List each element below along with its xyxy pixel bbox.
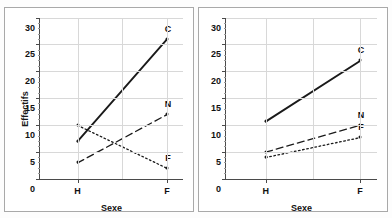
y-axis-minor-tick [224,50,226,51]
y-axis-minor-tick [224,28,226,29]
grid-line-vertical [313,18,314,179]
grid-line [226,18,377,19]
grid-line [226,152,377,153]
y-axis-minor-tick [38,157,40,158]
grid-line [40,98,183,99]
x-axis-tick-label: H [262,186,269,196]
y-axis-minor-tick [224,39,226,40]
y-axis-minor-tick [38,60,40,61]
x-axis-tick-label: H [74,186,81,196]
y-axis-tick-label: 25 [201,49,221,59]
y-axis-minor-tick [224,141,226,142]
y-axis-tick-label: 15 [201,103,221,113]
plot-area: CNF Sexe HF [225,18,377,180]
y-axis-tick [36,44,40,45]
y-axis-minor-tick [224,162,226,163]
y-axis-minor-tick [224,136,226,137]
y-axis-tick-label: 15 [15,103,35,113]
y-axis-tick [36,71,40,72]
y-axis-tick-label: 25 [15,49,35,59]
y-axis-minor-tick [38,136,40,137]
y-axis-minor-tick [224,77,226,78]
y-axis-minor-tick [38,109,40,110]
series-label-c: C [165,24,172,34]
y-axis-minor-tick [38,146,40,147]
y-axis-minor-tick [224,114,226,115]
y-axis-tick-label: 10 [201,130,221,140]
y-axis-minor-tick [224,173,226,174]
x-axis-tick [360,179,361,183]
grid-line [40,125,183,126]
y-axis-tick-label: 30 [201,23,221,33]
left-interaction-plot: Effectifs 051015202530 CNF Sexe HF [4,7,194,212]
y-axis-minor-tick [224,168,226,169]
y-axis-minor-tick [38,162,40,163]
y-axis-minor-tick [38,87,40,88]
x-axis-tick [167,179,168,183]
y-axis-tick [222,18,226,19]
y-axis-tick-label: 0 [201,184,221,194]
right-interaction-plot: 051015202530 CNF Sexe HF [198,7,388,212]
y-axis-minor-tick [224,130,226,131]
grid-line-category [78,18,79,179]
y-axis-minor-tick [38,114,40,115]
y-axis-minor-tick [224,119,226,120]
series-label-n: N [165,99,172,109]
y-axis-minor-tick [224,60,226,61]
y-axis-tick-label: 20 [201,76,221,86]
y-axis-tick [222,125,226,126]
x-axis-tick [78,179,79,183]
y-axis-minor-tick [38,23,40,24]
grid-line [40,44,183,45]
y-axis-minor-tick [38,50,40,51]
y-axis-minor-tick [224,66,226,67]
y-axis-minor-tick [38,119,40,120]
y-axis-minor-tick [224,146,226,147]
y-axis-minor-tick [38,130,40,131]
y-axis-minor-tick [38,103,40,104]
series-label-c: C [358,45,365,55]
x-axis-title: Sexe [226,203,377,213]
y-axis-tick [222,98,226,99]
grid-line [226,125,377,126]
y-axis-minor-tick [38,77,40,78]
y-axis-minor-tick [38,93,40,94]
y-axis-minor-tick [224,82,226,83]
y-axis-minor-tick [224,23,226,24]
y-axis-tick [36,18,40,19]
grid-line [226,98,377,99]
grid-line-category [167,18,168,179]
grid-line [226,44,377,45]
figure-canvas: Effectifs 051015202530 CNF Sexe HF 05101… [0,0,392,218]
y-axis-minor-tick [224,93,226,94]
grid-line [40,18,183,19]
y-axis-tick [36,179,40,180]
grid-line [40,71,183,72]
series-label-n: N [358,110,365,120]
x-axis-tick-label: F [357,186,363,196]
x-axis-tick [266,179,267,183]
y-axis-minor-tick [224,87,226,88]
grid-line-category [266,18,267,179]
y-axis-tick [222,179,226,180]
y-axis-tick [36,152,40,153]
y-axis-minor-tick [38,168,40,169]
y-axis-tick-label: 5 [15,157,35,167]
y-axis-minor-tick [38,66,40,67]
y-axis-tick-label: 30 [15,23,35,33]
y-axis-tick-label: 0 [15,184,35,194]
grid-line [40,152,183,153]
y-axis-minor-tick [38,141,40,142]
y-axis-minor-tick [38,34,40,35]
plot-area: CNF Sexe HF [39,18,183,180]
x-axis-title: Sexe [40,203,183,213]
y-axis-minor-tick [224,34,226,35]
y-axis-tick-labels: 051015202530 [203,18,223,180]
y-axis-minor-tick [38,55,40,56]
y-axis-minor-tick [224,109,226,110]
grid-line-vertical [122,18,123,179]
y-axis-tick [222,152,226,153]
y-axis-minor-tick [224,157,226,158]
y-axis-tick-label: 20 [15,76,35,86]
grid-line-category [360,18,361,179]
